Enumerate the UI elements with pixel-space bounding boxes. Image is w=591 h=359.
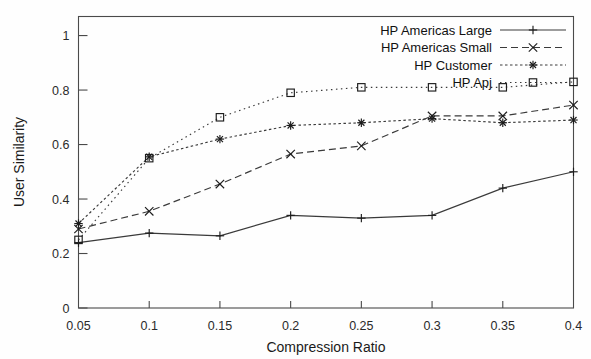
legend-label-1: HP Americas Small: [381, 40, 492, 55]
series-line: [79, 105, 574, 229]
chart-legend: HP Americas LargeHP Americas SmallHP Cus…: [380, 23, 566, 91]
y-tick-label: 0.6: [52, 138, 69, 152]
series-1: [74, 101, 577, 233]
y-axis-ticks: [79, 36, 88, 308]
legend-sample-marker-0: [529, 26, 537, 34]
data-point: [145, 207, 153, 215]
legend-label-3: HP Apj: [452, 75, 492, 90]
data-point: [357, 119, 365, 127]
data-point: [216, 180, 224, 188]
data-point: [499, 119, 507, 127]
legend-label-2: HP Customer: [414, 58, 492, 73]
x-tick-label: 0.1: [141, 319, 158, 333]
legend-sample-marker-2: [529, 61, 537, 69]
y-tick-label: 0: [63, 302, 70, 316]
data-point: [499, 184, 507, 192]
data-point: [74, 219, 82, 227]
data-point: [216, 135, 224, 143]
x-axis-title: Compression Ratio: [266, 339, 385, 355]
y-tick-label: 0.8: [52, 84, 69, 98]
data-point: [357, 214, 365, 222]
x-tick-label: 0.15: [208, 319, 232, 333]
x-tick-label: 0.3: [423, 319, 440, 333]
data-point: [428, 211, 436, 219]
series-0: [74, 168, 577, 247]
chart-page: 00.20.40.60.81 0.050.10.150.20.250.30.35…: [0, 0, 591, 359]
x-tick-label: 0.2: [282, 319, 299, 333]
legend-label-0: HP Americas Large: [380, 23, 492, 38]
data-point: [216, 232, 224, 240]
data-point: [287, 89, 294, 96]
data-point: [286, 150, 294, 158]
data-point: [286, 211, 294, 219]
series-3: [75, 78, 577, 243]
data-point: [569, 116, 577, 124]
data-point: [145, 229, 153, 237]
data-point: [216, 114, 223, 121]
x-tick-label: 0.25: [349, 319, 373, 333]
y-tick-label: 0.2: [52, 247, 69, 261]
data-point: [357, 142, 365, 150]
x-axis-tick-labels: 0.050.10.150.20.250.30.350.4: [66, 319, 582, 333]
x-tick-label: 0.4: [565, 319, 582, 333]
data-point: [569, 168, 577, 176]
x-axis-ticks: [149, 301, 503, 308]
y-axis-tick-labels: 00.20.40.60.81: [52, 29, 69, 315]
y-tick-label: 1: [63, 29, 70, 43]
x-tick-label: 0.35: [491, 319, 515, 333]
data-series-group: [74, 78, 577, 247]
y-tick-label: 0.4: [52, 193, 69, 207]
data-point: [286, 121, 294, 129]
data-point: [499, 84, 506, 91]
data-point: [428, 114, 436, 122]
user-similarity-line-chart: 00.20.40.60.81 0.050.10.150.20.250.30.35…: [0, 0, 591, 359]
y-axis-title: User Similarity: [11, 117, 27, 207]
x-tick-label: 0.05: [66, 319, 90, 333]
